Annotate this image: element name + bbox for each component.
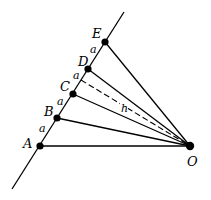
- label-e: E: [91, 26, 102, 41]
- rays-to-origin: [40, 42, 190, 146]
- segment-label-a: a: [90, 43, 97, 56]
- label-o: O: [187, 154, 198, 169]
- perpendicular-h: [81, 80, 190, 146]
- point-e: [101, 38, 108, 45]
- segment-label-a: a: [39, 122, 46, 135]
- label-b: B: [43, 104, 54, 119]
- height-label-h: h: [121, 102, 128, 115]
- point-a: [36, 142, 43, 149]
- label-d: D: [77, 54, 89, 69]
- main-line: [12, 12, 124, 189]
- segment-label-a: a: [57, 95, 64, 108]
- point-o: [186, 142, 194, 150]
- point-b: [53, 114, 60, 121]
- label-c: C: [60, 79, 70, 94]
- geometry-diagram: h ABCDEO aaaa: [0, 0, 211, 200]
- label-a: A: [22, 136, 32, 151]
- segment-label-a: a: [73, 69, 80, 82]
- point-c: [69, 90, 76, 97]
